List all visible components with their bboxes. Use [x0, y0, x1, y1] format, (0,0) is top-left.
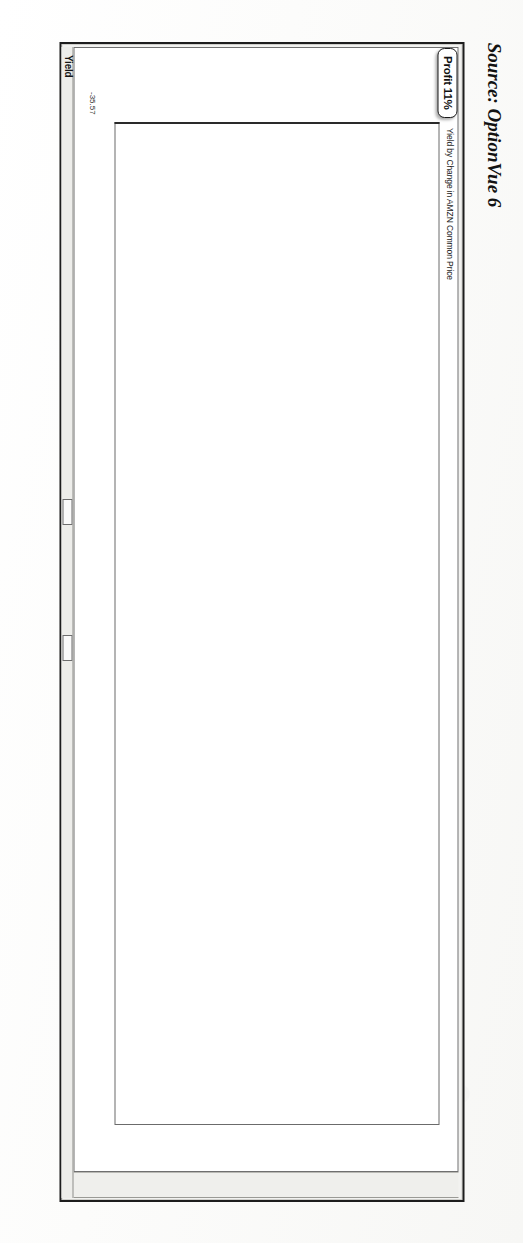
chart-title: Yield by Change in AMZN Common Price	[444, 128, 454, 280]
source-caption: Source: OptionVue 6	[471, 10, 517, 240]
percent-change-tick-labels	[73, 1173, 458, 1197]
plot-inner	[115, 123, 438, 1124]
y-axis-tick-labels	[114, 68, 439, 120]
window-inner-panel: Yield by Change in AMZN Common Price -35…	[73, 47, 458, 1172]
rotated-page-stage: Yield by Change in AMZN Common Price -35…	[0, 0, 523, 1243]
x-axis-tick-labels	[94, 122, 112, 1125]
scroll-block-right[interactable]	[62, 635, 72, 661]
plot-area	[114, 122, 439, 1125]
source-caption-text: Source: OptionVue 6	[483, 43, 505, 208]
profit-callout: Profit 11%	[437, 48, 457, 118]
optionvue-chart-window: Yield by Change in AMZN Common Price -35…	[59, 42, 464, 1202]
window-bottom-strip: Yield	[61, 47, 73, 1198]
y-axis-heavy-rule	[114, 122, 439, 124]
scroll-block-left[interactable]	[62, 499, 72, 525]
y-axis-min-label: -35.57	[87, 92, 96, 115]
chart-canvas	[115, 123, 438, 1124]
yield-axis-label: Yield	[62, 55, 73, 78]
profit-callout-label: Profit 11%	[441, 56, 453, 110]
percent-change-band	[73, 1172, 458, 1198]
